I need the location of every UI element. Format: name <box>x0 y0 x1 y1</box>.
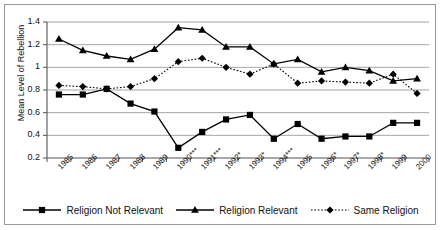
data-point-marker <box>80 91 86 97</box>
y-tick-label: 1.4 <box>14 16 40 26</box>
triangle-marker-icon <box>175 204 215 216</box>
data-point-marker <box>55 82 62 89</box>
series-religion-relevant <box>55 24 421 84</box>
y-axis-tick-marks <box>43 22 47 158</box>
data-point-marker <box>151 75 158 82</box>
y-tick-label: 1 <box>14 61 40 71</box>
y-tick-label: 0.2 <box>14 152 40 162</box>
data-point-marker <box>199 129 205 135</box>
data-point-marker <box>79 46 87 53</box>
data-point-marker <box>318 136 324 142</box>
legend-item-religion-not-relevant[interactable]: Religion Not Relevant <box>22 204 163 216</box>
data-point-marker <box>413 75 421 82</box>
data-point-marker <box>366 133 372 139</box>
data-point-marker <box>222 64 229 71</box>
data-point-marker <box>56 91 62 97</box>
data-point-marker <box>247 112 253 118</box>
data-point-marker <box>175 145 181 151</box>
chart-legend: Religion Not RelevantReligion RelevantSa… <box>8 198 433 222</box>
square-marker-icon <box>22 204 62 216</box>
y-tick-label: 0.8 <box>14 84 40 94</box>
data-point-marker <box>246 71 253 78</box>
legend-item-same-religion[interactable]: Same Religion <box>310 204 419 216</box>
y-tick-label: 0.4 <box>14 129 40 139</box>
data-point-marker <box>223 116 229 122</box>
series-line <box>59 28 417 81</box>
data-point-marker <box>79 83 86 90</box>
legend-item-religion-relevant[interactable]: Religion Relevant <box>175 204 297 216</box>
data-series-layer <box>55 24 421 151</box>
data-point-marker <box>390 120 396 126</box>
data-point-marker <box>294 80 301 87</box>
data-point-marker <box>55 35 63 42</box>
series-religion-not-relevant <box>56 86 420 151</box>
data-point-marker <box>342 78 349 85</box>
data-point-marker <box>127 101 133 107</box>
series-line <box>59 89 417 148</box>
data-point-marker <box>151 108 157 114</box>
data-point-marker <box>127 83 134 90</box>
series-line <box>59 58 417 93</box>
data-point-marker <box>271 136 277 142</box>
data-point-marker <box>366 80 373 87</box>
data-point-marker <box>318 77 325 84</box>
data-point-marker <box>342 133 348 139</box>
data-point-marker <box>175 58 182 65</box>
data-point-marker <box>174 24 182 31</box>
gridlines <box>47 22 429 135</box>
data-point-marker <box>294 56 302 63</box>
data-point-marker <box>342 63 350 70</box>
data-point-marker <box>295 121 301 127</box>
diamond-marker-icon <box>310 204 350 216</box>
legend-label: Religion Relevant <box>219 205 297 216</box>
y-tick-label: 1.2 <box>14 39 40 49</box>
chart-plot-area <box>0 0 441 230</box>
legend-label: Religion Not Relevant <box>66 205 163 216</box>
chart-figure: Mean Level of Rebellion 0.20.40.60.811.2… <box>0 0 441 230</box>
data-point-marker <box>199 55 206 62</box>
legend-label: Same Religion <box>354 205 419 216</box>
data-point-marker <box>414 120 420 126</box>
y-tick-label: 0.6 <box>14 107 40 117</box>
